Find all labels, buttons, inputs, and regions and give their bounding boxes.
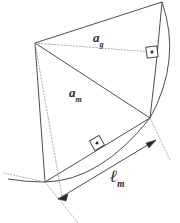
label-apothem-g: ag (93, 31, 104, 48)
label-apothem-m-subscript: m (76, 95, 82, 104)
arc-length-dimension-line (58, 140, 156, 199)
label-arc-length-m: ℓm (110, 168, 125, 188)
edge-bottom-to-right-chord (45, 118, 150, 182)
label-arc-length-subscript: m (117, 179, 124, 189)
right-angle-marker-upper (146, 46, 158, 58)
arc-right-bulge (150, 2, 170, 118)
edge-apex-to-right (35, 43, 150, 118)
label-apothem-g-base: a (93, 30, 100, 45)
geometry-diagram: ag am ℓm (0, 0, 180, 223)
construction-line-right-extension (150, 118, 170, 160)
construction-line-bottom-extension (45, 182, 78, 223)
construction-line-apothem-m (35, 43, 62, 196)
edge-top-right-to-right (150, 2, 162, 118)
arc-lower-bulge (8, 118, 150, 182)
right-angle-marker-lower (89, 135, 104, 150)
edge-apex-to-bottom (35, 43, 45, 182)
label-apothem-m-base: a (69, 85, 76, 100)
label-apothem-g-subscript: g (100, 40, 104, 49)
diagram-canvas (0, 0, 180, 223)
arrowhead-upper-right (146, 140, 156, 148)
label-apothem-m: am (69, 86, 82, 103)
